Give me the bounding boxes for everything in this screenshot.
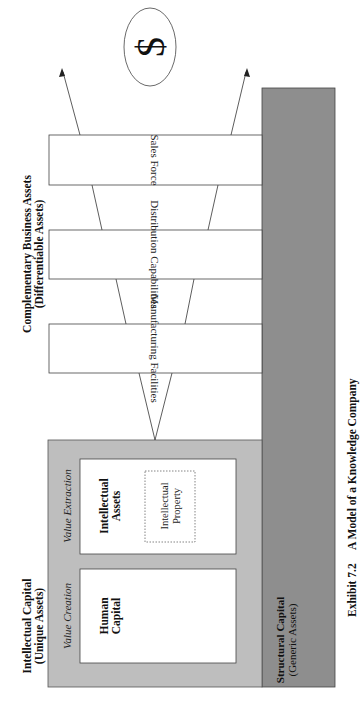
value-creation-label: Value Creation (61, 583, 73, 649)
value-extraction-label: Value Extraction (61, 469, 73, 543)
arrowhead-left-icon (59, 68, 65, 77)
dollar-icon: $ (128, 37, 173, 57)
intellectual-assets-label-line1: Intellectual (98, 478, 110, 534)
human-capital-label-line1: Human (98, 597, 110, 635)
intellectual-capital-subtitle: (Unique Assets) (33, 588, 46, 665)
exhibit-title: A Model of a Knowledge Company (346, 378, 359, 550)
structural-capital-subtitle: (Generic Assets) (286, 603, 299, 676)
knowledge-company-diagram: $ Manufacturing Facilities Distribution … (0, 0, 364, 710)
arrowhead-right-icon (244, 68, 250, 77)
complementary-assets-subtitle: (Differentiable Assets) (33, 199, 46, 308)
exhibit-number: Exhibit 7.2 (346, 563, 358, 617)
sales-force-label: Sales Force (149, 134, 161, 185)
manufacturing-facilities-label: Manufacturing Facilities (149, 294, 161, 402)
intellectual-property-label-line2: Property (171, 487, 182, 524)
intellectual-assets-label-line2: Assets (110, 490, 122, 521)
intellectual-property-label-line1: Intellectual (159, 482, 170, 529)
distribution-capabilities-label: Distribution Capabilities (149, 200, 161, 308)
structural-capital-bar (262, 88, 335, 687)
structural-capital-title: Structural Capital (274, 597, 286, 683)
human-capital-label-line2: Capital (110, 598, 123, 634)
